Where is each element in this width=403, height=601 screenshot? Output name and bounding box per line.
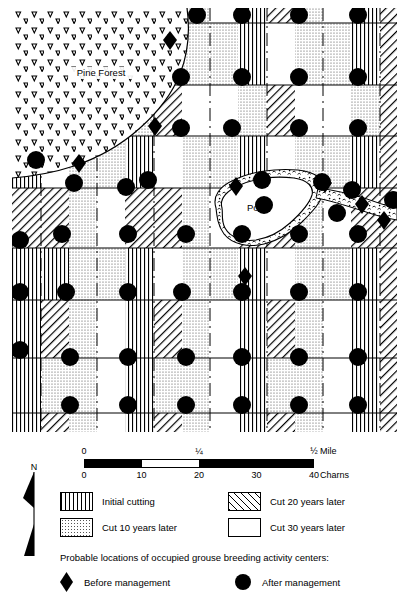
pattern-legend: Initial cutting Cut 20 years later Cut 1… [60, 492, 396, 537]
swatch-diagonal-hatch-icon [228, 492, 261, 511]
legend-item-cut-30-years: Cut 30 years later [228, 518, 396, 537]
north-arrow: N [10, 462, 58, 570]
scale-mile-unit: Mile [320, 446, 337, 456]
marker-label-after-management: After management [262, 577, 340, 588]
scale-mile-tick-0: 0 [81, 446, 86, 456]
scale-chain-unit: Charns [320, 470, 349, 480]
legend-label-cut-30-years: Cut 30 years later [270, 522, 345, 533]
scale-chains-row: 0 10 20 30 40 Charns [84, 470, 314, 483]
scale-bar-graphic [84, 459, 314, 468]
legend-label-initial-cutting: Initial cutting [102, 496, 155, 507]
north-arrow-graphic [10, 462, 58, 558]
scale-segment-3 [256, 460, 313, 467]
scale-miles-row: 0 ¼ ½ Mile [84, 446, 314, 459]
scale-chain-tick-0: 0 [81, 470, 86, 480]
scale-segment-1 [85, 460, 142, 467]
marker-legend-caption: Probable locations of occupied grouse br… [60, 552, 400, 563]
management-map: Pine Forest Pond [12, 8, 397, 432]
swatch-vertical-lines-icon [60, 492, 93, 511]
marker-item-after-management: After management [235, 574, 340, 590]
scale-chain-tick-40: 40 [309, 470, 319, 480]
legend-item-cut-10-years: Cut 10 years later [60, 518, 228, 537]
legend-label-cut-20-years: Cut 20 years later [270, 496, 345, 507]
legend-item-initial-cutting: Initial cutting [60, 492, 228, 511]
scale-bar-block: 0 ¼ ½ Mile 0 10 20 30 40 Charns [84, 446, 314, 486]
marker-item-before-management: Before management [60, 572, 235, 592]
scale-chain-tick-10: 10 [136, 470, 146, 480]
filled-circle-icon [235, 574, 251, 590]
scale-chain-tick-20: 20 [194, 470, 204, 480]
scale-mile-tick-half: ½ [310, 446, 318, 456]
filled-diamond-icon [60, 572, 73, 592]
legend-label-cut-10-years: Cut 10 years later [102, 522, 177, 533]
map-canvas: Pine Forest Pond [12, 8, 397, 432]
scale-segment-2 [199, 460, 256, 467]
marker-label-before-management: Before management [84, 577, 170, 588]
marker-legend: Probable locations of occupied grouse br… [60, 552, 400, 592]
north-label: N [10, 462, 58, 472]
scale-mile-tick-qtr: ¼ [195, 446, 203, 456]
swatch-stipple-dots-icon [60, 518, 93, 537]
pine-forest-label: Pine Forest [77, 67, 126, 78]
scale-chain-tick-30: 30 [251, 470, 261, 480]
legend-item-cut-20-years: Cut 20 years later [228, 492, 396, 511]
swatch-blank-white-icon [228, 518, 261, 537]
